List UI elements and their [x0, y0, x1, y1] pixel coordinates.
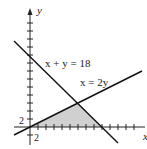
line1-label: x + y = 18: [45, 57, 91, 69]
shaded-region: [30, 103, 102, 127]
chart: y x x + y = 18 x = 2y 2 2: [0, 0, 147, 149]
y-axis-arrow-icon: [28, 8, 33, 15]
x-axis-label: x: [142, 130, 147, 142]
line2-label: x = 2y: [80, 76, 109, 88]
y-tick-label: 2: [19, 115, 24, 126]
x-tick-label: 2: [34, 132, 39, 143]
y-axis-label: y: [36, 4, 42, 16]
